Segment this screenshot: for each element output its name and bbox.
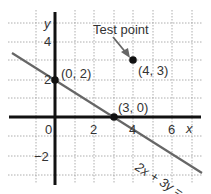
tick-y-4: 4 bbox=[44, 35, 51, 48]
label-point-4-3: (4, 3) bbox=[138, 64, 168, 77]
label-point-3-0: (3, 0) bbox=[118, 101, 148, 114]
test-point-label: Test point bbox=[93, 23, 149, 36]
graph: y x 4 2 −2 0 2 4 6 (0, 2) (3, 0) (4, 3) … bbox=[0, 0, 211, 194]
tick-y-2: 2 bbox=[44, 73, 51, 86]
point-0-2 bbox=[51, 76, 59, 84]
tick-x-2: 2 bbox=[90, 123, 97, 136]
label-point-0-2: (0, 2) bbox=[61, 67, 91, 80]
tick-x-4: 4 bbox=[129, 123, 136, 136]
tick-x-6: 6 bbox=[168, 123, 175, 136]
y-axis-label: y bbox=[44, 17, 51, 30]
tick-x-0: 0 bbox=[45, 123, 52, 136]
point-4-3 bbox=[129, 56, 137, 64]
point-3-0 bbox=[110, 113, 118, 121]
x-axis-label: x bbox=[186, 122, 193, 135]
tick-y-minus-2: −2 bbox=[34, 150, 49, 163]
